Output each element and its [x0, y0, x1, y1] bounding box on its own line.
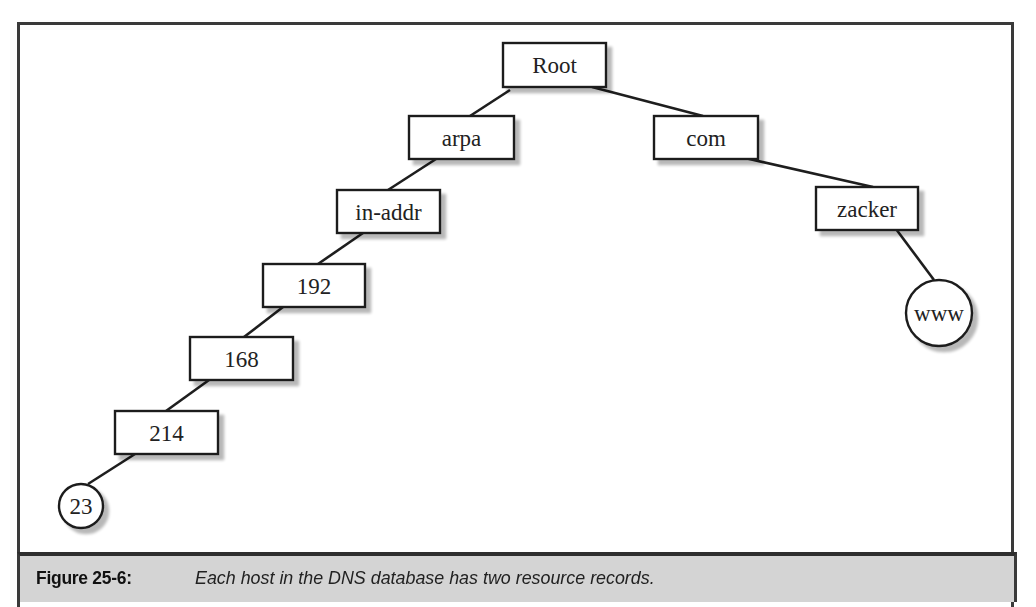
node-label: 214 [149, 421, 184, 446]
node-label: 192 [297, 274, 332, 299]
node-192: 192 [263, 264, 365, 307]
node-23: 23 [59, 484, 103, 528]
edge-arpa-to-in-addr [388, 159, 436, 190]
figure-caption: Figure 25-6: Each host in the DNS databa… [17, 552, 1017, 602]
edge-168-to-214 [166, 380, 209, 411]
node-label: www [914, 301, 964, 326]
node-label: 23 [70, 494, 93, 519]
node-label: arpa [442, 126, 482, 151]
figure-caption-text: Each host in the DNS database has two re… [195, 567, 655, 589]
node-214: 214 [115, 411, 218, 454]
edge-in-addr-to-192 [318, 233, 363, 264]
node-root: Root [503, 43, 606, 87]
edge-214-to-23 [88, 454, 135, 484]
node-www: www [906, 280, 972, 346]
node-zacker: zacker [816, 187, 918, 230]
edge-root-to-com [592, 87, 703, 116]
node-com: com [654, 116, 758, 159]
node-168: 168 [190, 337, 293, 380]
node-label: com [686, 126, 726, 151]
edge-com-to-zacker [745, 158, 873, 187]
node-label: in-addr [355, 200, 422, 225]
edge-192-to-168 [244, 307, 283, 337]
node-label: 168 [224, 347, 259, 372]
edge-zacker-to-www [896, 229, 934, 280]
node-arpa: arpa [409, 116, 514, 159]
node-label: zacker [837, 197, 897, 222]
figure-number-label: Figure 25-6: [36, 567, 132, 589]
tree-nodes: Rootarpacomin-addrzacker192168214www23 [59, 43, 972, 528]
edge-root-to-arpa [470, 90, 510, 116]
node-label: Root [532, 53, 577, 78]
node-in-addr: in-addr [337, 190, 440, 233]
